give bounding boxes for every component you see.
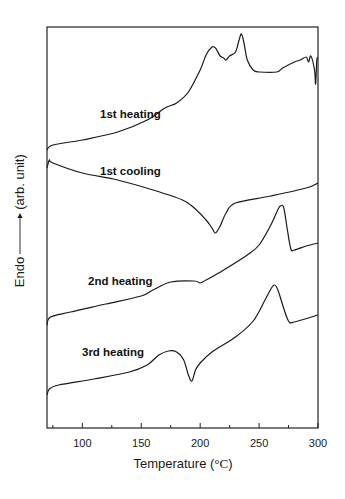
curve-2nd-heating [47, 205, 318, 325]
x-tick-label: 250 [250, 437, 268, 449]
curve-label-2nd-heating: 2nd heating [88, 275, 153, 287]
plot-frame [47, 27, 318, 428]
curves-group [47, 34, 318, 395]
curve-label-3rd-heating: 3rd heating [82, 346, 144, 358]
x-tick-label: 300 [309, 437, 327, 449]
y-axis-title-unit: (arb. unit) [12, 154, 27, 210]
curve-labels: 1st heating1st cooling2nd heating3rd hea… [82, 108, 161, 358]
x-axis-tick-labels: 100150200250300 [73, 437, 327, 449]
y-axis-title: Endo (arb. unit) [12, 154, 27, 287]
x-tick-label: 200 [191, 437, 209, 449]
endo-arrow-icon [18, 213, 23, 218]
x-tick-label: 150 [132, 437, 150, 449]
dsc-thermogram-chart: 100150200250300 1st heating1st cooling2n… [0, 0, 345, 499]
y-axis-title-endo: Endo [12, 257, 27, 287]
curve-label-1st-heating: 1st heating [100, 108, 161, 120]
curve-1st-heating [47, 34, 318, 150]
x-tick-label: 100 [73, 437, 91, 449]
curve-3rd-heating [47, 285, 318, 395]
x-axis-ticks [53, 423, 318, 428]
curve-1st-cooling [47, 160, 318, 233]
curve-label-1st-cooling: 1st cooling [100, 165, 161, 177]
x-axis-title: Temperature (°C) [133, 456, 232, 471]
